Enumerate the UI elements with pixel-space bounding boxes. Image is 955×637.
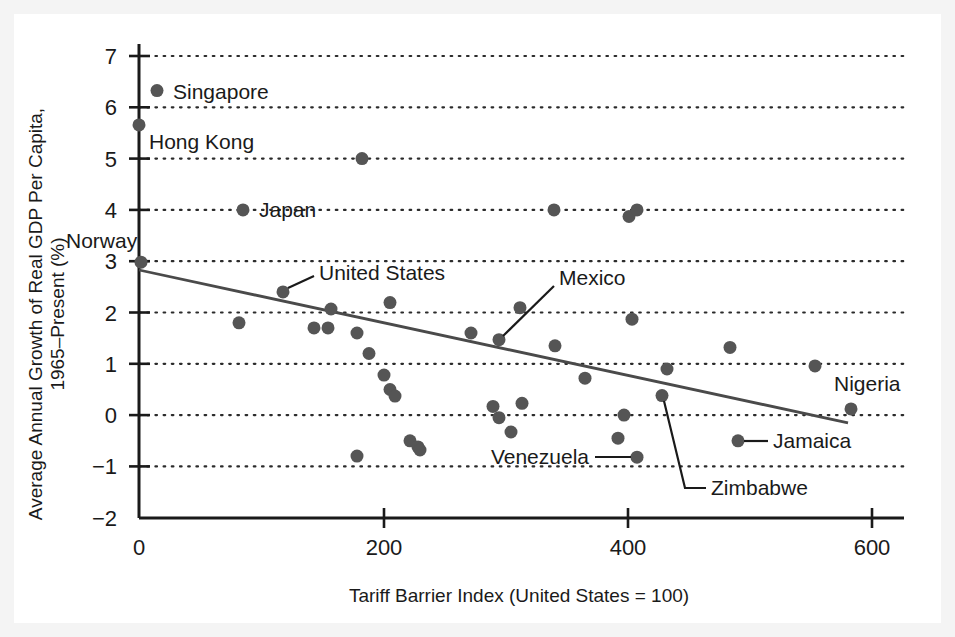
data-point [356,152,369,165]
ytick-label-1: 1 [105,352,117,377]
data-point [237,203,250,216]
data-point [549,339,562,352]
data-point [135,256,148,269]
data-point [414,444,427,457]
scatter-chart: 7 6 5 4 3 2 [14,14,941,623]
data-point [724,341,737,354]
ytick-label-2: 2 [105,301,117,326]
data-point [548,203,561,216]
data-point [732,434,745,447]
data-point [514,301,527,314]
ytick-label-5: 5 [105,147,117,172]
point-label-japan: Japan [259,198,316,221]
ytick-label-6: 6 [105,95,117,120]
point-label-mexico: Mexico [559,266,626,289]
ytick-label-7: 7 [105,44,117,69]
data-point [626,313,639,326]
x-ticks-group: 0 200 400 600 [133,508,890,560]
data-point [618,409,631,422]
x-axis-title: Tariff Barrier Index (United States = 10… [349,585,689,606]
data-point [656,389,669,402]
leader-line-united-states [288,276,314,288]
xtick-label-600: 600 [854,535,891,560]
ytick-label-0: 0 [105,403,117,428]
point-label-nigeria: Nigeria [834,372,901,395]
data-point [322,321,335,334]
point-label-venezuela: Venezuela [491,445,589,468]
leader-line-zimbabwe [664,401,706,488]
data-point [325,303,338,316]
point-label-jamaica: Jamaica [773,429,852,452]
ytick-label-3: 3 [105,249,117,274]
point-label-norway: Norway [66,229,138,252]
point-label-singapore: Singapore [173,80,269,103]
data-point [809,359,822,372]
ytick-label-neg1: −1 [92,454,117,479]
data-point [389,390,402,403]
y-axis-title-line2: 1965–Present (%) [47,237,68,390]
data-point [631,203,644,216]
data-point [579,372,592,385]
data-point [378,369,391,382]
data-point [493,411,506,424]
data-point [351,327,364,340]
data-point [277,285,290,298]
data-point [505,426,518,439]
data-point [612,432,625,445]
data-point [487,400,500,413]
ytick-label-neg2: −2 [92,506,117,531]
point-label-zimbabwe: Zimbabwe [711,476,808,499]
xtick-label-0: 0 [133,535,145,560]
ytick-label-4: 4 [105,198,117,223]
data-point [631,451,644,464]
data-point [233,316,246,329]
data-point [465,327,478,340]
point-label-hong-kong: Hong Kong [149,130,254,153]
data-point [351,450,364,463]
point-label-united-states: United States [319,261,445,284]
data-point [845,402,858,415]
data-point [661,363,674,376]
data-point [384,296,397,309]
y-axis-title-line1: Average Annual Growth of Real GDP Per Ca… [25,108,46,520]
data-point [308,321,321,334]
figure-paper: 7 6 5 4 3 2 [14,14,941,623]
data-point [363,347,376,360]
trendline [139,270,848,423]
data-point [133,118,146,131]
xtick-label-200: 200 [366,535,403,560]
leader-line-mexico [503,286,554,336]
xtick-label-400: 400 [610,535,647,560]
point-labels-group: Singapore Hong Kong Japan Norway United … [66,80,901,499]
figure-page: 7 6 5 4 3 2 [0,0,955,637]
data-point [516,397,529,410]
data-point [151,84,164,97]
